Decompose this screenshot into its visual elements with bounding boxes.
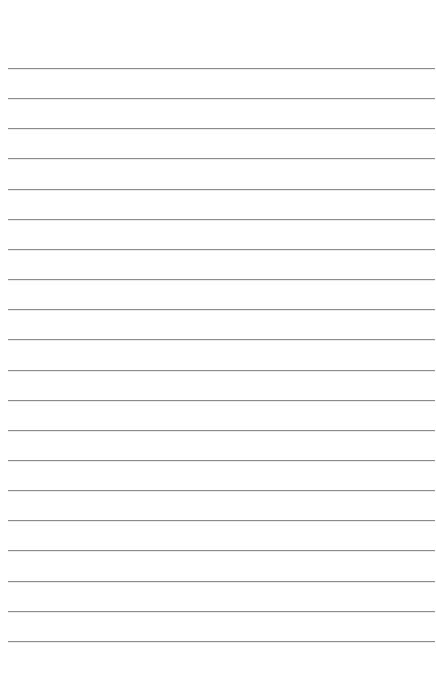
ruled-line [8, 98, 435, 99]
lined-paper-page [0, 0, 436, 687]
ruled-line [8, 581, 435, 582]
ruled-line [8, 370, 435, 371]
ruled-line [8, 309, 435, 310]
ruled-line [8, 430, 435, 431]
ruled-line [8, 550, 435, 551]
ruled-line [8, 460, 435, 461]
ruled-line [8, 189, 435, 190]
ruled-line [8, 611, 435, 612]
ruled-line [8, 339, 435, 340]
ruled-line [8, 158, 435, 159]
ruled-line [8, 68, 435, 69]
ruled-line [8, 400, 435, 401]
ruled-line [8, 219, 435, 220]
ruled-line [8, 128, 435, 129]
ruled-line [8, 490, 435, 491]
ruled-line [8, 279, 435, 280]
ruled-line [8, 520, 435, 521]
ruled-line [8, 641, 435, 642]
ruled-line [8, 249, 435, 250]
